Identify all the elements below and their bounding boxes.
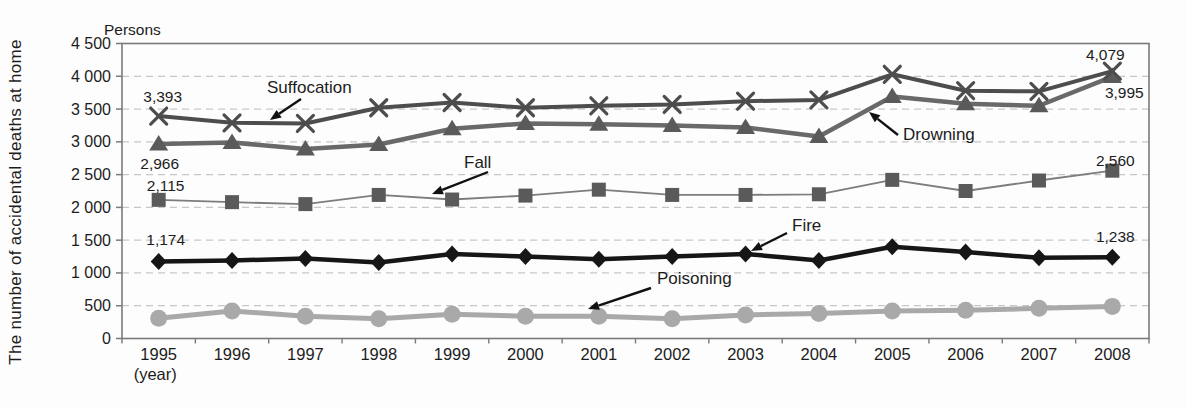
svg-text:Suffocation: Suffocation bbox=[267, 78, 352, 97]
square-marker bbox=[665, 188, 679, 202]
svg-text:Drowning: Drowning bbox=[903, 125, 975, 144]
circle-marker bbox=[590, 308, 607, 325]
svg-text:2004: 2004 bbox=[801, 345, 838, 363]
unit-label: Persons bbox=[104, 21, 161, 38]
circle-marker bbox=[297, 308, 314, 325]
svg-text:3,995: 3,995 bbox=[1105, 84, 1144, 101]
svg-text:1998: 1998 bbox=[360, 345, 397, 363]
circle-marker bbox=[884, 302, 901, 319]
svg-text:Persons: Persons bbox=[104, 21, 161, 38]
square-marker bbox=[225, 195, 239, 209]
y-axis-title: The number of accidental deaths at home bbox=[6, 39, 26, 364]
svg-text:2001: 2001 bbox=[580, 345, 617, 363]
circle-marker bbox=[957, 302, 974, 319]
square-marker bbox=[445, 193, 459, 207]
square-marker bbox=[812, 187, 826, 201]
svg-text:3 000: 3 000 bbox=[71, 133, 111, 150]
svg-text:4,079: 4,079 bbox=[1086, 46, 1125, 63]
accidental-deaths-at-home-line-chart: The number of accidental deaths at home … bbox=[0, 0, 1186, 408]
svg-text:1996: 1996 bbox=[214, 345, 251, 363]
square-marker bbox=[152, 193, 166, 207]
circle-marker bbox=[664, 310, 681, 327]
svg-text:1,174: 1,174 bbox=[146, 231, 185, 248]
svg-text:Fire: Fire bbox=[792, 216, 821, 235]
square-marker bbox=[298, 197, 312, 211]
square-marker bbox=[372, 188, 386, 202]
svg-text:2005: 2005 bbox=[874, 345, 911, 363]
svg-text:2,560: 2,560 bbox=[1096, 152, 1135, 169]
circle-marker bbox=[517, 308, 534, 325]
svg-text:3 500: 3 500 bbox=[71, 101, 111, 118]
svg-text:2,115: 2,115 bbox=[147, 177, 185, 194]
svg-text:3,393: 3,393 bbox=[143, 88, 182, 105]
svg-text:1 000: 1 000 bbox=[71, 264, 111, 281]
square-marker bbox=[885, 173, 899, 187]
circle-marker bbox=[150, 310, 167, 327]
svg-text:2008: 2008 bbox=[1094, 345, 1131, 363]
square-marker bbox=[1032, 174, 1046, 188]
svg-text:0: 0 bbox=[102, 330, 111, 347]
square-marker bbox=[592, 183, 606, 197]
svg-text:1,238: 1,238 bbox=[1096, 228, 1135, 245]
svg-text:1995: 1995 bbox=[140, 345, 177, 363]
svg-text:1999: 1999 bbox=[434, 345, 471, 363]
svg-text:1997: 1997 bbox=[287, 345, 324, 363]
circle-marker bbox=[810, 305, 827, 322]
circle-marker bbox=[444, 306, 461, 323]
square-marker bbox=[739, 188, 753, 202]
circle-marker bbox=[1030, 300, 1047, 317]
svg-text:2002: 2002 bbox=[654, 345, 691, 363]
svg-text:Fall: Fall bbox=[464, 153, 491, 172]
svg-text:(year): (year) bbox=[134, 365, 177, 383]
circle-marker bbox=[1104, 298, 1121, 315]
square-marker bbox=[518, 189, 532, 203]
svg-text:2000: 2000 bbox=[507, 345, 544, 363]
svg-text:2003: 2003 bbox=[727, 345, 764, 363]
line-chart-plot: 05001 0001 5002 0002 5003 0003 5004 0004… bbox=[0, 0, 1186, 408]
svg-text:2 000: 2 000 bbox=[71, 199, 111, 216]
svg-text:4 000: 4 000 bbox=[71, 68, 111, 85]
circle-marker bbox=[737, 306, 754, 323]
svg-text:Poisoning: Poisoning bbox=[657, 269, 732, 288]
svg-text:2007: 2007 bbox=[1021, 345, 1058, 363]
svg-text:1 500: 1 500 bbox=[71, 232, 111, 249]
circle-marker bbox=[370, 310, 387, 327]
circle-marker bbox=[224, 302, 241, 319]
svg-text:2,966: 2,966 bbox=[140, 155, 179, 172]
svg-text:500: 500 bbox=[84, 297, 111, 314]
svg-text:2006: 2006 bbox=[947, 345, 984, 363]
svg-text:2 500: 2 500 bbox=[71, 166, 111, 183]
square-marker bbox=[959, 184, 973, 198]
